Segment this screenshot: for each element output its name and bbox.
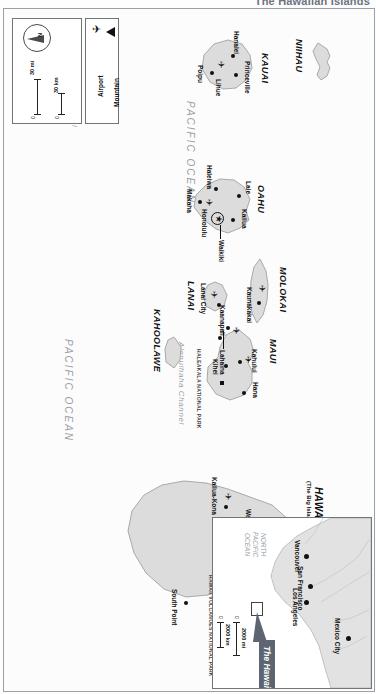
inset-marker-san-francisco[interactable]: [308, 584, 313, 589]
marker-dot-princeville[interactable]: [234, 73, 238, 77]
inset-map[interactable]: Vancouver San Francisco Los Angeles Mexi…: [212, 517, 372, 689]
ocean-label-pacific-east: PACIFIC OCEAN: [63, 339, 74, 442]
inset-label-mexico-city: Mexico City: [334, 618, 341, 654]
marker-dot-hana[interactable]: [242, 391, 246, 395]
marker-dot-lahaina[interactable]: [218, 336, 222, 340]
inset-label-los-angeles: Los Angeles: [292, 588, 299, 626]
scale-bar-miles: [37, 79, 38, 115]
inset-scale-tick-miles-left: [233, 622, 240, 623]
mountain-icon: [106, 27, 115, 37]
place-label-lanai-city: Lanai City: [200, 283, 207, 314]
place-label-hana: Hana: [252, 382, 259, 398]
place-label-makaha: Makaha: [186, 189, 193, 213]
park-label-haleakala: HALEAKALA NATIONAL PARK: [196, 349, 202, 429]
inset-scale-bar-km: [220, 622, 221, 648]
inset-scale-min-km: 0: [218, 616, 224, 619]
scale-unit-km: 30 km: [53, 77, 59, 93]
place-label-waikiki: Waikiki: [218, 240, 225, 262]
inset-map-rotated: Vancouver San Francisco Los Angeles Mexi…: [213, 518, 371, 688]
marker-dot-hanalei[interactable]: [231, 54, 235, 58]
place-label-poipu: Poipu: [197, 65, 204, 83]
marker-dot-laie[interactable]: [237, 194, 241, 198]
inset-scale-min-miles: 0: [234, 616, 240, 619]
leader-line-lahaina: [223, 331, 224, 349]
compass-rose-icon: N: [23, 24, 51, 52]
scale-min-km: 0: [54, 116, 60, 119]
marker-dot-kailua-kona[interactable]: [224, 505, 228, 509]
page-title: The Hawaiian Islands: [255, 0, 370, 7]
marker-square-haleakala: [220, 381, 224, 385]
marker-dot-makaha[interactable]: [198, 200, 202, 204]
scale-bar-km: [61, 93, 62, 115]
inset-ocean-line-1: NORTH: [259, 532, 267, 557]
compass-and-scale-box: N 30 mi 0 30 km 0: [12, 18, 82, 124]
inset-marker-los-angeles[interactable]: [304, 600, 309, 605]
island-shape-niihau: [306, 37, 336, 85]
inset-scale-tick-miles-right: [233, 655, 240, 656]
legend-airport-label: Airport: [97, 75, 104, 97]
airport-icon-lihue[interactable]: ✈: [216, 61, 225, 69]
scale-tick-miles-bottom: [34, 114, 41, 115]
place-label-hanalei: Hanalei: [233, 31, 240, 54]
map-legend-key: ✈ Airport Mountain: [85, 18, 119, 124]
inset-scale-unit-km: 2000 km: [225, 624, 231, 646]
place-label-kailua-kona: Kailua-Kona: [211, 477, 218, 515]
compass-north-label: N: [37, 33, 43, 37]
island-label-niihau: NIIHAU: [294, 39, 304, 72]
island-label-kahoolawe: KAHOOLAWE: [152, 309, 162, 372]
island-label-oahu: OAHU: [256, 185, 266, 213]
island-label-lanai: LANAI: [186, 281, 196, 311]
scale-unit-miles: 30 mi: [29, 61, 35, 75]
airport-icon-lanai-city[interactable]: ✈: [209, 291, 218, 299]
marker-dot-kaunakakai[interactable]: [257, 301, 261, 305]
island-label-kauai: KAUAI: [260, 53, 270, 84]
marker-dot-kahului[interactable]: [238, 360, 242, 364]
place-label-kahului: Kahului: [251, 349, 258, 373]
place-label-honolulu: Honolulu: [201, 209, 208, 237]
inset-scale-unit-miles: 2000 mi: [241, 628, 247, 648]
airport-icon-kaunakakai[interactable]: ✈: [257, 285, 266, 293]
marker-dot-poipu[interactable]: [210, 71, 214, 75]
place-label-kailua: Kailua: [241, 209, 248, 229]
inset-marker-mexico-city[interactable]: [346, 636, 351, 641]
scale-min-miles: 0: [30, 116, 36, 119]
scale-tick-km-bottom: [58, 114, 65, 115]
inset-scale-tick-km-right: [217, 647, 224, 648]
inset-ocean-line-2: PACIFIC: [251, 532, 259, 557]
inset-ocean-line-3: OCEAN: [243, 532, 251, 557]
marker-dot-south-point[interactable]: [184, 601, 188, 605]
marker-dot-kailua[interactable]: [231, 218, 235, 222]
inset-ocean-label: NORTH PACIFIC OCEAN: [243, 532, 267, 557]
place-label-kihei: Kihei: [212, 359, 219, 375]
inset-scale-tick-km-left: [217, 622, 224, 623]
place-label-laie: Laie: [245, 181, 252, 194]
airport-icon: ✈: [92, 25, 101, 34]
scale-tick-miles-top: [34, 79, 41, 80]
scale-tick-km-top: [58, 93, 65, 94]
airport-icon-kaanapali[interactable]: ✈: [231, 327, 240, 335]
marker-dot-haleiwa[interactable]: [214, 187, 218, 191]
leader-line-waikiki: [220, 225, 221, 239]
airport-icon-honolulu[interactable]: ✈: [204, 199, 213, 207]
inset-callout-label: The Hawaiian Islands: [259, 640, 275, 689]
place-label-haleiwa: Haleiwa: [206, 165, 213, 189]
legend-mountain-label: Mountain: [113, 78, 120, 107]
place-label-kaunakakai: Kaunakakai: [246, 287, 253, 323]
inset-scale-bar-miles: [236, 622, 237, 656]
place-label-lahaina: Lahaina: [219, 350, 226, 375]
marker-dot-kaanapali[interactable]: [226, 326, 230, 330]
airport-icon-kailua-kona[interactable]: ✈: [223, 493, 232, 501]
place-label-lihue: Lihue: [215, 79, 222, 96]
inset-marker-vancouver[interactable]: [304, 554, 309, 559]
marker-dot-kihei[interactable]: [224, 364, 228, 368]
place-label-princeville: Princeville: [244, 61, 251, 94]
place-label-south-point: South Point: [171, 589, 178, 625]
island-label-maui: MAUI: [268, 339, 278, 364]
island-label-molokai: MOLOKAI: [278, 267, 288, 312]
capital-icon-honolulu[interactable]: ★: [211, 212, 224, 225]
island-shape-kahoolawe: [160, 331, 186, 373]
